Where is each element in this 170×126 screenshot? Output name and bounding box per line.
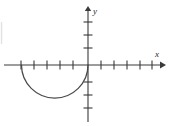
x-axis-group: x [4,49,166,70]
y-axis-arrow-icon [85,6,91,11]
y-axis-label: y [92,6,97,16]
x-axis-arrow-icon [160,62,166,69]
semicircle-curve [22,65,89,98]
x-axis-label: x [154,49,159,59]
figure-root: x y [0,0,170,126]
coordinate-plot: x y [0,0,170,126]
y-axis-group: y [84,6,98,122]
